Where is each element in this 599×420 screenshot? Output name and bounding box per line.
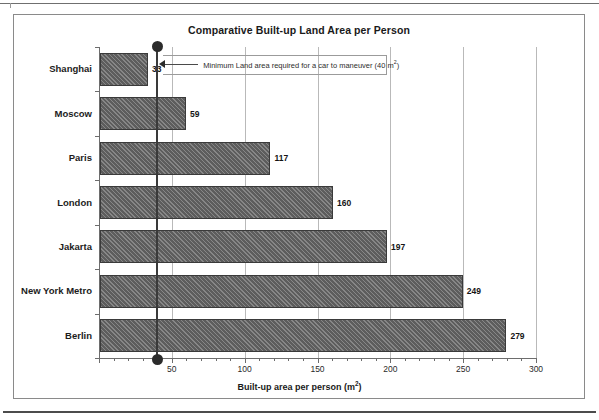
value-minor-tick-170 — [347, 358, 348, 361]
value-tick-250 — [463, 358, 464, 363]
value-minor-tick-240 — [449, 358, 450, 361]
gridline-250 — [463, 47, 464, 358]
category-tick-2 — [95, 136, 100, 137]
value-label-jakarta: 197 — [391, 242, 405, 252]
value-label-berlin: 279 — [510, 331, 524, 341]
bar-berlin[interactable] — [100, 319, 506, 352]
value-label-london: 160 — [337, 198, 351, 208]
page-canvas: Comparative Built-up Land Area per Perso… — [0, 0, 599, 420]
category-tick-4 — [95, 225, 100, 226]
bar-shanghai[interactable] — [100, 53, 148, 86]
category-tick-6 — [95, 314, 100, 315]
x-axis-title-tail: ) — [359, 382, 362, 392]
value-minor-tick-140 — [303, 358, 304, 361]
category-label-berlin: Berlin — [65, 330, 92, 341]
annotation-text-main: Minimum Land area required for a car to … — [203, 61, 394, 70]
category-label-jakarta: Jakarta — [59, 241, 92, 252]
value-minor-tick-260 — [478, 358, 479, 361]
value-axis-label-100: 100 — [238, 364, 252, 374]
value-minor-tick-70 — [201, 358, 202, 361]
value-axis-label-200: 200 — [383, 364, 397, 374]
value-axis-label-150: 150 — [310, 364, 324, 374]
value-minor-tick-190 — [376, 358, 377, 361]
value-tick-300 — [536, 358, 537, 363]
value-label-moscow: 59 — [190, 109, 199, 119]
value-minor-tick-20 — [128, 358, 129, 361]
value-minor-tick-90 — [230, 358, 231, 361]
top-divider-rule — [0, 3, 599, 4]
annotation-text: Minimum Land area required for a car to … — [203, 59, 399, 70]
value-minor-tick-280 — [507, 358, 508, 361]
value-label-paris: 117 — [274, 153, 288, 163]
x-axis-title-main: Built-up area per person (m — [237, 382, 355, 392]
category-tick-1 — [95, 91, 100, 92]
value-axis-label-50: 50 — [167, 364, 176, 374]
value-minor-tick-220 — [419, 358, 420, 361]
value-minor-tick-290 — [521, 358, 522, 361]
gridline-200 — [390, 47, 391, 358]
value-minor-tick-130 — [288, 358, 289, 361]
x-axis-title: Built-up area per person (m2) — [0, 380, 599, 392]
annotation-text-tail: ) — [397, 61, 400, 70]
value-tick-200 — [390, 358, 391, 363]
category-tick-3 — [95, 180, 100, 181]
value-label-new-york-metro: 249 — [467, 286, 481, 296]
value-minor-tick-80 — [216, 358, 217, 361]
category-label-moscow: Moscow — [55, 108, 92, 119]
bar-moscow[interactable] — [100, 97, 186, 130]
value-axis-label-250: 250 — [456, 364, 470, 374]
bar-jakarta[interactable] — [100, 230, 387, 263]
value-minor-tick-30 — [143, 358, 144, 361]
gridline-300 — [536, 47, 537, 358]
value-tick-150 — [318, 358, 319, 363]
value-minor-tick-110 — [259, 358, 260, 361]
value-minor-tick-180 — [361, 358, 362, 361]
value-minor-tick-230 — [434, 358, 435, 361]
bar-paris[interactable] — [100, 142, 270, 175]
bottom-divider-rule — [3, 411, 596, 413]
top-rule-tick — [10, 3, 11, 8]
value-axis-label-300: 300 — [529, 364, 543, 374]
value-tick-50 — [172, 358, 173, 363]
bar-london[interactable] — [100, 186, 333, 219]
value-minor-tick-10 — [114, 358, 115, 361]
threshold-line — [156, 44, 158, 362]
value-minor-tick-210 — [405, 358, 406, 361]
value-minor-tick-270 — [492, 358, 493, 361]
annotation-arrow-icon — [159, 60, 165, 68]
category-tick-7 — [95, 358, 100, 359]
threshold-dot-bottom — [152, 354, 163, 365]
category-label-paris: Paris — [69, 152, 92, 163]
category-label-shanghai: Shanghai — [49, 63, 92, 74]
value-tick-100 — [245, 358, 246, 363]
category-tick-5 — [95, 269, 100, 270]
value-minor-tick-160 — [332, 358, 333, 361]
value-minor-tick-60 — [186, 358, 187, 361]
threshold-dot-top — [152, 41, 163, 52]
chart-title: Comparative Built-up Land Area per Perso… — [14, 24, 584, 36]
annotation-leader-line — [162, 64, 198, 65]
category-label-london: London — [57, 197, 92, 208]
bar-new-york-metro[interactable] — [100, 275, 463, 308]
value-minor-tick-120 — [274, 358, 275, 361]
category-tick-0 — [95, 47, 100, 48]
category-label-new-york-metro: New York Metro — [21, 285, 92, 296]
